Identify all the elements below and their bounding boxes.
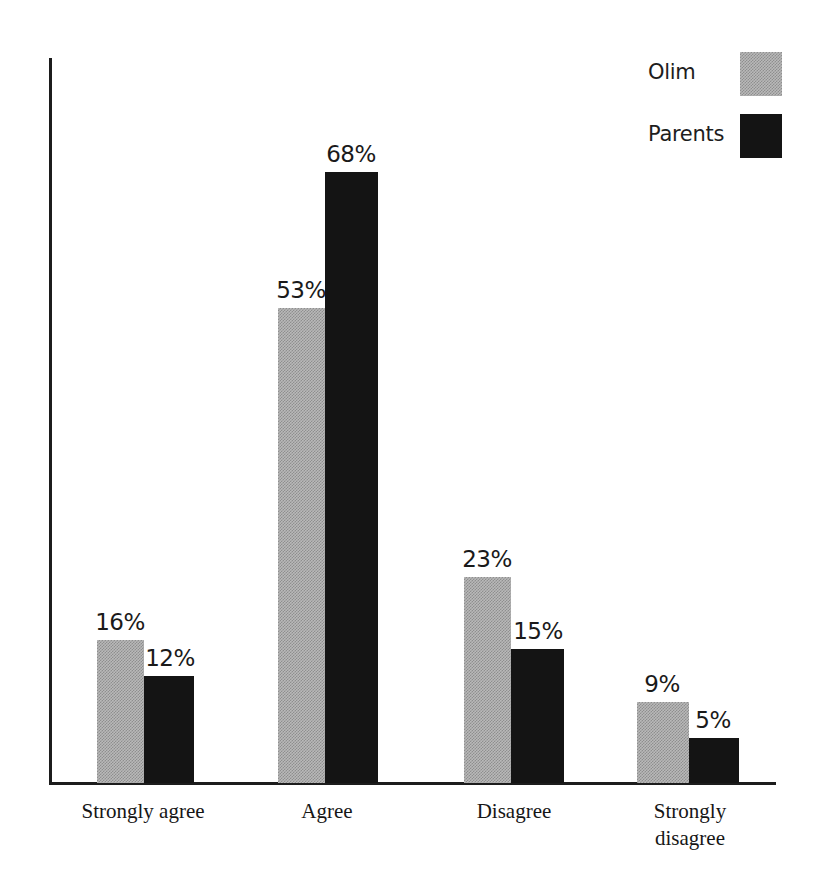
bar-olim-agree: [278, 308, 325, 783]
bar-label-parents-disagree: 15%: [513, 618, 563, 644]
bar-olim-strongly-agree: [97, 640, 144, 783]
bar-parents-agree: [325, 172, 378, 783]
x-axis-label-disagree: Disagree: [477, 798, 552, 825]
bar-chart: 16% 12% 53% 68% 23% 15% 9% 5% Strongly a…: [0, 0, 820, 885]
bar-label-parents-agree: 68%: [326, 141, 376, 167]
bar-parents-disagree: [511, 649, 564, 783]
bar-parents-strongly-agree: [144, 676, 194, 783]
bar-label-olim-strongly-agree: 16%: [95, 609, 145, 635]
legend-item-parents: Parents: [648, 114, 798, 160]
legend-label-parents: Parents: [648, 122, 724, 146]
x-axis-label-strongly-agree: Strongly agree: [81, 798, 204, 825]
legend-swatch-parents: [740, 114, 782, 158]
bar-label-parents-strongly-disagree: 5%: [695, 707, 731, 733]
bar-label-olim-strongly-disagree: 9%: [644, 671, 680, 697]
x-axis-label-agree: Agree: [301, 798, 352, 825]
bar-olim-disagree: [464, 577, 511, 783]
legend-swatch-olim: [740, 52, 782, 96]
legend-label-olim: Olim: [648, 60, 695, 84]
x-axis-label-strongly-disagree: Strongly disagree: [654, 798, 726, 852]
bar-label-olim-agree: 53%: [276, 277, 326, 303]
bar-label-parents-strongly-agree: 12%: [145, 645, 195, 671]
plot-area: 16% 12% 53% 68% 23% 15% 9% 5%: [52, 58, 776, 783]
legend: Olim Parents: [648, 52, 798, 160]
legend-item-olim: Olim: [648, 52, 798, 98]
bar-label-olim-disagree: 23%: [462, 546, 512, 572]
bar-olim-strongly-disagree: [637, 702, 689, 783]
bar-parents-strongly-disagree: [689, 738, 739, 783]
